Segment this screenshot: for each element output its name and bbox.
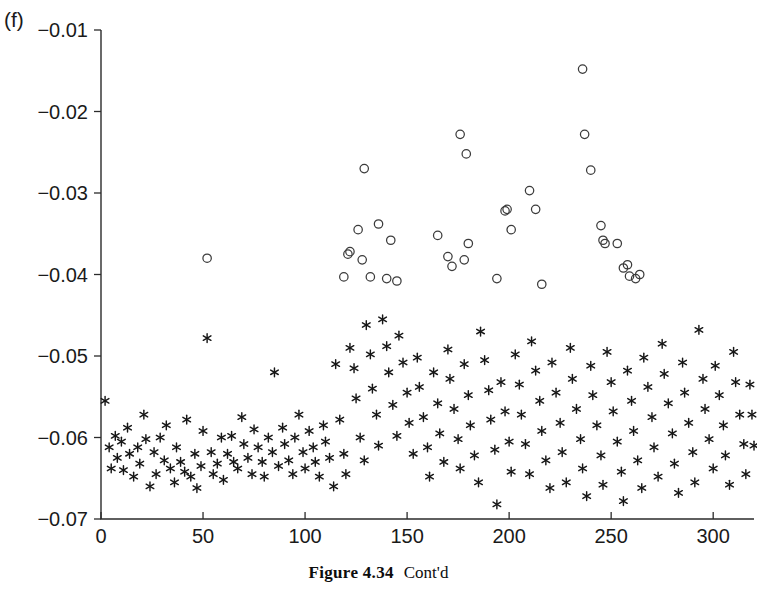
data-point-star [424,443,432,452]
data-point-star [689,448,697,457]
data-point-star [409,449,417,458]
data-point-circle [507,225,515,233]
data-point-circle [358,256,366,264]
data-point-star [640,353,648,362]
data-point-star [260,472,268,481]
data-point-star [589,391,597,400]
data-point-star [362,321,370,330]
data-point-circle [462,150,470,158]
data-point-circle [374,220,382,228]
data-point-star [250,425,258,434]
data-point-star [340,449,348,458]
data-point-star [173,443,181,452]
data-point-star [289,470,297,479]
data-point-star [671,459,679,468]
data-point-star [120,466,128,475]
data-point-star [295,410,303,419]
data-point-star [130,472,138,481]
data-point-star [350,364,358,373]
data-point-star [430,368,438,377]
data-point-star [695,326,703,335]
data-point-star [465,391,473,400]
data-point-circle [448,262,456,270]
y-tick-label: −0.02 [37,101,88,123]
data-point-star [326,453,334,462]
data-point-star [669,429,677,438]
data-point-star [446,374,454,383]
data-point-star [228,431,236,440]
data-point-star [542,456,550,465]
data-point-star [685,418,693,427]
data-point-star [497,378,505,387]
data-point-star [740,440,748,449]
data-point-star [558,448,566,457]
data-point-star [507,467,515,476]
x-tick-label: 300 [697,525,730,547]
data-point-star [146,482,154,491]
data-point-star [234,464,242,473]
data-point-circle [460,256,468,264]
data-point-star [460,360,468,369]
data-point-star [501,407,509,416]
x-tick-label: 50 [192,525,214,547]
y-axis-ticks [94,30,101,519]
data-point-star [691,478,699,487]
data-point-star [516,380,524,389]
data-point-star [552,388,560,397]
data-point-circle [393,277,401,285]
data-point-star [620,497,628,506]
data-point-star [136,459,144,468]
data-point-star [240,440,248,449]
data-point-star [748,410,756,419]
data-point-star [491,445,499,454]
data-point-star [658,339,666,348]
data-point-circle [344,250,352,258]
data-point-star [389,401,397,410]
data-point-star [420,413,428,422]
data-point-star [481,356,489,365]
x-axis-tick-labels: 050100150200250300 [95,525,729,547]
data-point-star [750,441,757,450]
data-point-star [330,482,338,491]
data-point-star [285,456,293,465]
data-point-star [209,470,217,479]
data-point-star [701,405,709,414]
data-point-star [383,342,391,351]
data-point-star [291,433,299,442]
data-point-star [224,449,232,458]
data-point-star [644,383,652,392]
data-point-star [218,433,226,442]
data-point-star [675,489,683,498]
data-point-star [248,470,256,479]
scatter-plot: −0.07−0.06−0.05−0.04−0.03−0.02−0.01 0501… [0,0,757,560]
data-point-star [405,418,413,427]
data-point-star [679,358,687,367]
data-point-star [177,458,185,467]
data-point-circle [578,65,586,73]
data-point-star [275,462,283,471]
x-tick-label: 200 [492,525,525,547]
data-point-star [471,451,479,460]
data-point-star [279,423,287,432]
data-point-star [220,475,228,484]
data-point-star [548,358,556,367]
y-tick-label: −0.01 [37,19,88,41]
data-point-star [522,440,530,449]
data-point-star [699,374,707,383]
data-point-star [385,368,393,377]
y-tick-label: −0.07 [37,508,88,530]
data-point-star [360,456,368,465]
data-point-circle [340,273,348,281]
data-point-circle [387,236,395,244]
data-point-star [152,470,160,479]
data-point-circle [587,166,595,174]
data-point-star [705,435,713,444]
data-point-star [134,443,142,452]
data-point-star [630,427,638,436]
data-point-star [638,484,646,493]
data-point-star [301,464,309,473]
data-series-circle [203,65,644,289]
data-point-star [715,391,723,400]
data-point-star [367,350,375,359]
data-point-star [648,413,656,422]
